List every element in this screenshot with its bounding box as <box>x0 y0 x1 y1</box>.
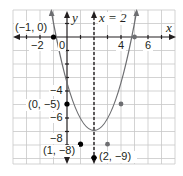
origin-label: 0 <box>59 39 65 51</box>
point-3-neg8 <box>105 142 110 147</box>
point-4-neg5 <box>119 102 124 107</box>
x-axis-label: x <box>165 20 172 35</box>
tick-label-neg8: −8 <box>50 132 63 144</box>
point-5-0 <box>132 35 137 40</box>
tick-label-neg6: −6 <box>50 111 63 123</box>
tick-label-4: 4 <box>118 39 124 51</box>
tick-label-6: 6 <box>145 39 151 51</box>
label-point-2-neg9: (2, −9) <box>99 150 131 162</box>
tick-label-neg2: −2 <box>31 39 44 51</box>
point-0-neg5 <box>64 101 69 106</box>
y-axis-label: y <box>70 10 78 25</box>
tick-label-neg4: −4 <box>50 84 63 96</box>
symmetry-label: x = 2 <box>98 10 127 25</box>
label-point-neg1-0: (−1, 0) <box>15 21 47 33</box>
point-neg1-0 <box>51 34 56 39</box>
point-2-neg9 <box>91 155 96 160</box>
label-point-0-neg5: (0, −5) <box>28 98 60 110</box>
parabola-graph: (−1, 0) y x = 2 x −2 0 4 6 −4 (0, −5) −6… <box>0 0 183 176</box>
label-point-1-neg8: (1, −8) <box>43 144 75 156</box>
